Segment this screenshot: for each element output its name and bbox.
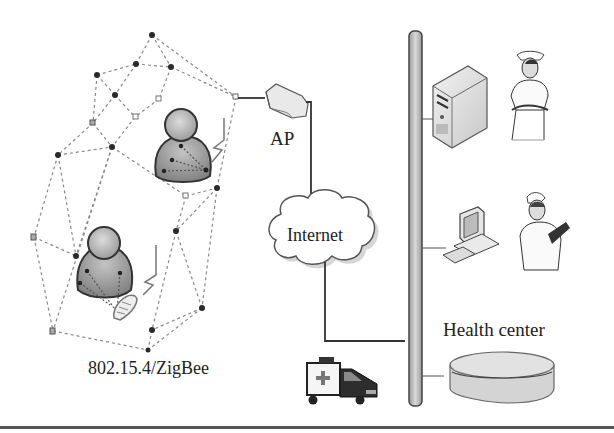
internet-label: Internet (287, 225, 343, 246)
bottom-divider (0, 426, 614, 429)
health-center-label: Health center (443, 319, 545, 341)
ambulance-icon (307, 357, 377, 405)
access-point-device (238, 84, 308, 118)
network-diagram: AP Internet 802.15.4/ZigBee Health cente… (0, 0, 614, 433)
patient-1-figure (155, 109, 224, 182)
mobile-phone-icon (114, 295, 137, 320)
internet-to-backbone-link (325, 262, 405, 341)
zigbee-label: 802.15.4/ZigBee (88, 358, 209, 379)
ap-to-internet-link (306, 102, 311, 205)
wireless-signal-icon (143, 245, 156, 295)
ap-label: AP (270, 128, 294, 150)
nurse-2-figure (520, 193, 570, 270)
health-center-database-icon (450, 352, 554, 403)
server-tower-icon (433, 66, 487, 148)
wireless-signal-icon (212, 118, 224, 162)
nurse-1-figure (511, 51, 548, 140)
backbone-bus (409, 31, 422, 406)
patient-2-figure (77, 227, 156, 320)
workstation-computer-icon (443, 207, 499, 263)
